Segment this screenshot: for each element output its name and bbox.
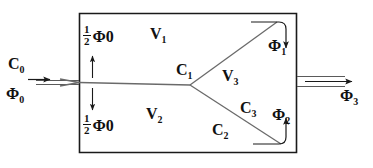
label-output-flux-text: Φ <box>340 87 353 104</box>
label-half-flux-bottom: 1 2 Φ0 <box>83 114 114 137</box>
label-input-current-sub: 0 <box>20 64 25 75</box>
fraction-numerator-top: 1 <box>83 24 91 35</box>
half-flux-top-sub: 0 <box>106 28 114 45</box>
half-flux-bottom-sub: 0 <box>106 117 114 134</box>
label-output-flux-sub: 3 <box>353 96 358 107</box>
label-half-flux-top: 1 2 Φ0 <box>83 25 114 48</box>
label-branch-c3: C3 <box>240 100 257 119</box>
label-output-flux: Φ3 <box>340 88 358 107</box>
label-region-v2: V2 <box>146 106 163 125</box>
label-region-v1-sub: 1 <box>162 34 167 45</box>
label-branch-c2-sub: 2 <box>224 130 229 141</box>
label-flux-phi2-text: Φ <box>272 106 285 123</box>
label-input-current: C0 <box>8 56 25 75</box>
label-half-flux-bottom-symbol: Φ0 <box>93 117 114 135</box>
label-node-c1: C1 <box>176 62 193 81</box>
half-flux-top-phi: Φ <box>93 28 106 45</box>
diagram-vector-layer <box>0 0 373 168</box>
label-branch-c3-text: C <box>240 99 252 116</box>
lower-diagonal-branch <box>190 85 281 144</box>
diagram-canvas: C0 Φ0 1 2 Φ0 1 2 Φ0 V1 V2 V3 C1 C2 C3 Φ1… <box>0 0 373 168</box>
label-input-flux-text: Φ <box>6 85 19 102</box>
label-branch-c3-sub: 3 <box>252 108 257 119</box>
label-region-v1: V1 <box>150 26 167 45</box>
fraction-denominator-bottom: 2 <box>83 124 91 136</box>
label-input-flux-sub: 0 <box>19 94 24 105</box>
half-flux-bottom-phi: Φ <box>93 117 106 134</box>
label-flux-phi2-sub: 2 <box>285 115 290 126</box>
fraction-denominator-top: 2 <box>83 35 91 47</box>
fraction-numerator-bottom: 1 <box>83 113 91 124</box>
label-branch-c2: C2 <box>212 122 229 141</box>
label-half-flux-top-symbol: Φ0 <box>93 28 114 46</box>
label-node-c1-text: C <box>176 61 188 78</box>
label-region-v1-text: V <box>150 25 162 42</box>
label-branch-c2-text: C <box>212 121 224 138</box>
label-flux-phi1: Φ1 <box>268 38 286 57</box>
fraction-one-half-top: 1 2 <box>83 24 91 47</box>
label-flux-phi1-sub: 1 <box>281 46 286 57</box>
label-region-v2-sub: 2 <box>158 114 163 125</box>
label-input-current-text: C <box>8 55 20 72</box>
label-region-v2-text: V <box>146 105 158 122</box>
label-region-v3: V3 <box>222 68 239 87</box>
label-flux-phi1-text: Φ <box>268 37 281 54</box>
label-flux-phi2: Φ2 <box>272 107 290 126</box>
label-region-v3-text: V <box>222 67 234 84</box>
label-node-c1-sub: 1 <box>188 70 193 81</box>
label-input-flux: Φ0 <box>6 86 24 105</box>
label-region-v3-sub: 3 <box>234 76 239 87</box>
fraction-one-half-bottom: 1 2 <box>83 113 91 136</box>
